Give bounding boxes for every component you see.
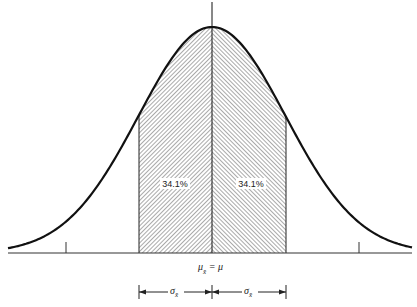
region-right-label: 34.1% bbox=[238, 179, 264, 189]
mean-label: μx̄ = μ bbox=[197, 261, 223, 276]
shaded-region-right bbox=[212, 27, 286, 253]
svg-text:μx̄ = μ: μx̄ = μ bbox=[197, 261, 223, 276]
sigma-interval-right: σx̄ bbox=[212, 285, 286, 299]
region-left-label: 34.1% bbox=[162, 179, 188, 189]
normal-curve-diagram: 34.1% 34.1% μx̄ = μ σx̄ σx̄ bbox=[0, 0, 417, 307]
svg-text:σx̄: σx̄ bbox=[170, 285, 179, 299]
sigma-interval-left: σx̄ bbox=[139, 285, 212, 299]
shaded-region-left bbox=[139, 27, 212, 253]
svg-text:σx̄: σx̄ bbox=[244, 285, 253, 299]
